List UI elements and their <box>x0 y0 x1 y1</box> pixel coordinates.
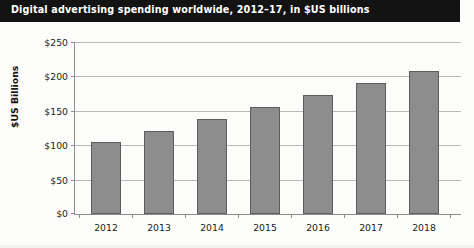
y-tick-label-0: $0 <box>56 208 68 219</box>
x-tick-0 <box>79 214 80 218</box>
bar-2013 <box>144 131 174 214</box>
y-tick-label-150: $150 <box>44 105 68 116</box>
y-tick-label-50: $50 <box>50 174 68 185</box>
x-tick-1 <box>132 214 133 218</box>
x-tick-label-2013: 2013 <box>147 222 171 233</box>
gridline-250: $250 <box>75 42 461 43</box>
bar-2016 <box>303 95 333 214</box>
bar-2014 <box>197 119 227 214</box>
x-tick-label-2017: 2017 <box>359 222 383 233</box>
x-tick-4 <box>291 214 292 218</box>
x-tick-5 <box>344 214 345 218</box>
x-tick-3 <box>238 214 239 218</box>
y-tick-label-200: $200 <box>44 71 68 82</box>
bar-2018 <box>409 71 439 214</box>
x-tick-label-2014: 2014 <box>200 222 224 233</box>
chart-title: Digital advertising spending worldwide, … <box>11 4 370 15</box>
y-tick-label-250: $250 <box>44 37 68 48</box>
y-tick-100 <box>71 145 75 146</box>
y-tick-50 <box>71 180 75 181</box>
x-tick-label-2018: 2018 <box>412 222 436 233</box>
gridline-200: $200 <box>75 76 461 77</box>
y-tick-250 <box>71 42 75 43</box>
x-tick-label-2015: 2015 <box>253 222 277 233</box>
y-tick-150 <box>71 111 75 112</box>
title-banner: Digital advertising spending worldwide, … <box>0 0 460 22</box>
x-tick-label-2012: 2012 <box>94 222 118 233</box>
y-axis-title: $US Billions <box>9 66 20 128</box>
plot-area: $250 $200 $150 $100 $50 $0 <box>74 42 461 215</box>
bar-2015 <box>250 107 280 214</box>
x-tick-7 <box>450 214 451 218</box>
y-tick-200 <box>71 76 75 77</box>
x-tick-label-2016: 2016 <box>306 222 330 233</box>
bar-2012 <box>91 142 121 214</box>
x-tick-6 <box>397 214 398 218</box>
x-axis: 2012 2013 2014 2015 2016 2017 2018 <box>75 214 461 244</box>
x-tick-2 <box>185 214 186 218</box>
chart-figure: Digital advertising spending worldwide, … <box>0 0 474 248</box>
bar-2017 <box>356 83 386 214</box>
y-tick-label-100: $100 <box>44 140 68 151</box>
